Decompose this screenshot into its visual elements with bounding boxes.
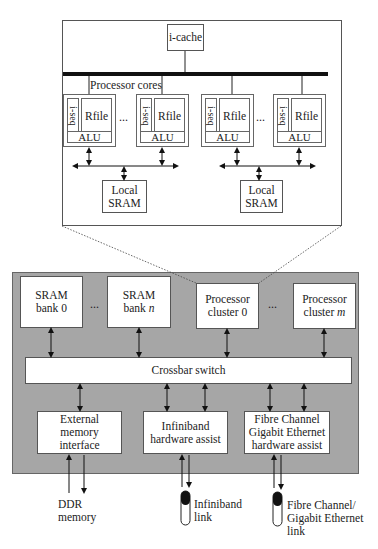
infiniband-link-plug: [181, 491, 190, 525]
fibre-link-plug: [273, 492, 282, 526]
processor-bus: [63, 72, 328, 76]
connector-lines: [0, 0, 378, 549]
